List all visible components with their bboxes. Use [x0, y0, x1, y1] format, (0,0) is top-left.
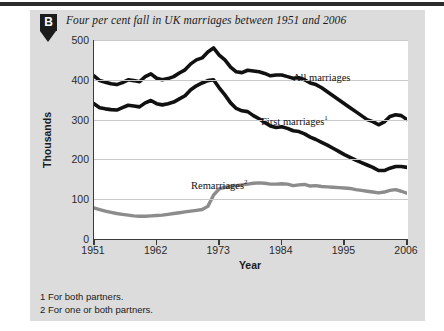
y-axis-tick-label: 200: [71, 153, 89, 165]
figure-badge: B: [40, 14, 57, 31]
x-axis-title: Year: [239, 259, 261, 271]
gridline: [94, 159, 408, 160]
x-axis-tick-label: 1973: [207, 244, 230, 256]
badge-arrow-icon: [40, 31, 56, 42]
series-label-remarriages-footnote-marker: 2: [244, 178, 248, 186]
y-axis-tick-label: 500: [71, 34, 89, 46]
top-rule: [0, 2, 444, 6]
y-axis-tick-label: 400: [71, 74, 89, 86]
series-label-remarriages: Remarriages2: [191, 178, 248, 191]
x-axis-tick-label: 1962: [144, 244, 167, 256]
y-axis-title: Thousands: [41, 112, 53, 168]
series-line-first-marriages: [94, 80, 407, 171]
footnote: 1 For both partners.: [40, 290, 153, 303]
gridline: [94, 120, 408, 121]
y-axis-tick-label: 100: [71, 193, 89, 205]
gridline: [94, 80, 408, 81]
plot-area: [93, 40, 408, 240]
footnote: 2 For one or both partners.: [40, 303, 153, 316]
series-label-first-marriages-text: First marriages: [261, 116, 324, 127]
y-axis-labels: 0100200300400500: [63, 40, 89, 240]
x-axis-tick-label: 1984: [269, 244, 292, 256]
y-axis-tick-label: 300: [71, 114, 89, 126]
series-label-first-marriages: First marriages1: [261, 114, 328, 127]
x-axis-tick-label: 1951: [81, 244, 104, 256]
gridline: [94, 199, 408, 200]
series-label-remarriages-text: Remarriages: [191, 180, 244, 191]
gridline: [94, 40, 408, 41]
footnotes: 1 For both partners.2 For one or both pa…: [40, 290, 153, 316]
series-label-first-marriages-footnote-marker: 1: [324, 114, 328, 122]
figure-panel: B Four per cent fall in UK marriages bet…: [30, 10, 425, 321]
chart: 0100200300400500 Thousands 1951196219731…: [63, 40, 408, 260]
x-axis-tick-label: 1995: [332, 244, 355, 256]
series-label-all-marriages-text: All marriages: [293, 72, 350, 83]
figure-title: Four per cent fall in UK marriages betwe…: [66, 14, 346, 26]
chart-canvas: [94, 40, 407, 239]
x-axis-tick-label: 2006: [394, 244, 417, 256]
series-label-all-marriages: All marriages: [293, 72, 350, 83]
